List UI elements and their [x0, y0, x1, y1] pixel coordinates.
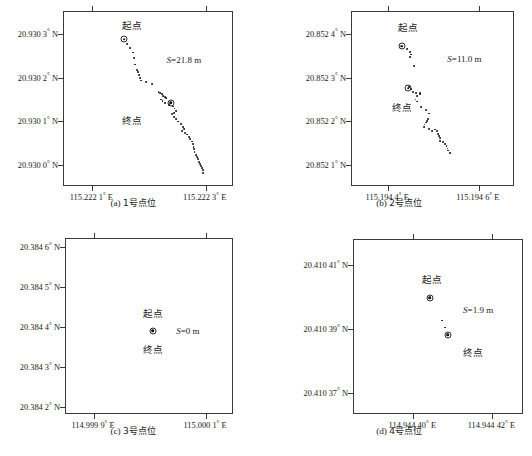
data-point [182, 130, 184, 132]
data-point [192, 143, 194, 145]
panel-c: 起点终点S=0 m (c) 3号点位 20.384 6° N20.384 5° … [0, 228, 266, 456]
data-point [173, 112, 175, 114]
data-point [165, 97, 167, 99]
caption-label-d: (d) [376, 426, 387, 436]
x-axis-label-c-0: 114.999 9° E [71, 418, 114, 430]
y-axis-label-b-2: 20.852 2° N [306, 114, 346, 126]
data-point [449, 152, 451, 154]
data-point [177, 121, 179, 123]
x-axis-label-a-0: 115.222 1° E [70, 190, 113, 202]
y-axis-label-c-0: 20.384 6° N [20, 240, 60, 252]
y-tick-c-0 [60, 247, 66, 248]
y-tick-b-2 [346, 121, 352, 122]
x-tick-top-d-1 [492, 234, 493, 240]
panel-d: 起点终点S=1.9 m (d) 4号点位 20.410 41° N20.410 … [266, 228, 532, 456]
end-marker-d [444, 331, 451, 338]
distance-annotation-c: S=0 m [176, 326, 199, 336]
start-label-c: 起点 [143, 306, 163, 320]
y-axis-label-a-2: 20.930 1° N [18, 114, 58, 126]
x-tick-top-b-0 [388, 6, 389, 12]
data-point [412, 91, 414, 93]
y-tick-a-3 [58, 165, 64, 166]
plot-frame-a: 起点终点S=21.8 m [63, 11, 233, 186]
y-tick-c-3 [60, 367, 66, 368]
y-axis-label-c-1: 20.384 5° N [20, 280, 60, 292]
x-tick-top-b-1 [479, 6, 480, 12]
data-point [413, 65, 415, 67]
x-axis-label-d-0: 114.944 40° E [389, 418, 436, 430]
x-tick-top-a-0 [92, 6, 93, 12]
start-marker-b [398, 43, 405, 50]
x-tick-top-c-1 [206, 233, 207, 239]
end-label-d: 终点 [463, 345, 483, 359]
data-point [426, 120, 428, 122]
data-point [420, 106, 422, 108]
plot-frame-c: 起点终点S=0 m [65, 238, 233, 414]
panel-a: 起点终点S=21.8 m (a) 1号点位 20.930 3° N20.930 … [0, 0, 266, 228]
y-tick-a-0 [58, 34, 64, 35]
data-point [423, 126, 425, 128]
x-axis-label-a-1: 115.222 3° E [183, 190, 226, 202]
start-end-marker-c [149, 327, 156, 334]
data-point [151, 83, 153, 85]
data-point [173, 116, 175, 118]
start-marker-d [426, 294, 433, 301]
x-axis-label-b-0: 115.194 4° E [366, 190, 409, 202]
end-marker-a [167, 99, 174, 106]
x-axis-label-c-1: 115.000 1° E [183, 418, 226, 430]
data-point [437, 133, 439, 135]
data-point [428, 113, 430, 115]
data-point [138, 74, 140, 76]
distance-annotation-d: S=1.9 m [463, 305, 493, 315]
data-point [197, 158, 199, 160]
data-point [202, 172, 204, 174]
data-point [140, 80, 142, 82]
data-point [193, 148, 195, 150]
plot-frame-d: 起点终点S=1.9 m [353, 239, 523, 414]
x-axis-label-d-1: 114.944 42° E [468, 418, 515, 430]
data-point [132, 52, 134, 54]
plot-frame-b: 起点终点S=11.0 m [351, 11, 514, 186]
y-tick-a-2 [58, 121, 64, 122]
y-axis-label-d-1: 20.410 39° N [304, 322, 348, 334]
y-axis-label-d-2: 20.410 37° N [304, 386, 348, 398]
x-tick-top-a-1 [206, 6, 207, 12]
data-point [441, 320, 443, 322]
y-tick-b-0 [346, 34, 352, 35]
end-label-b: 终点 [392, 100, 412, 114]
y-tick-c-2 [60, 327, 66, 328]
y-axis-label-b-3: 20.852 1° N [306, 158, 346, 170]
x-tick-top-c-0 [94, 233, 95, 239]
panel-b: 起点终点S=11.0 m (b) 2号点位 20.852 4° N20.852 … [266, 0, 532, 228]
y-axis-label-b-1: 20.852 3° N [306, 71, 346, 83]
data-point [164, 102, 166, 104]
x-tick-top-d-0 [413, 234, 414, 240]
data-point [137, 71, 139, 73]
end-label-a: 终点 [122, 113, 142, 127]
y-axis-label-c-4: 20.384 2° N [20, 400, 60, 412]
y-axis-label-a-0: 20.930 3° N [18, 27, 58, 39]
y-axis-label-a-3: 20.930 0° N [18, 158, 58, 170]
y-axis-label-a-1: 20.930 2° N [18, 71, 58, 83]
caption-text-c: 3号点位 [123, 426, 156, 436]
distance-annotation-a: S=21.8 m [167, 55, 202, 65]
data-point [428, 128, 430, 130]
data-point [406, 48, 408, 50]
data-point [180, 123, 182, 125]
data-point [439, 140, 441, 142]
start-label-b: 起点 [398, 20, 418, 34]
data-point [129, 47, 131, 49]
start-marker-a [121, 36, 128, 43]
data-point [416, 101, 418, 103]
data-point [136, 69, 138, 71]
y-tick-b-1 [346, 78, 352, 79]
data-point [409, 51, 411, 53]
data-point [193, 146, 195, 148]
data-point [420, 93, 422, 95]
data-point [133, 57, 135, 59]
y-tick-c-4 [60, 407, 66, 408]
data-point [126, 43, 128, 45]
data-point [409, 56, 411, 58]
y-tick-a-1 [58, 78, 64, 79]
y-tick-d-0 [348, 265, 354, 266]
